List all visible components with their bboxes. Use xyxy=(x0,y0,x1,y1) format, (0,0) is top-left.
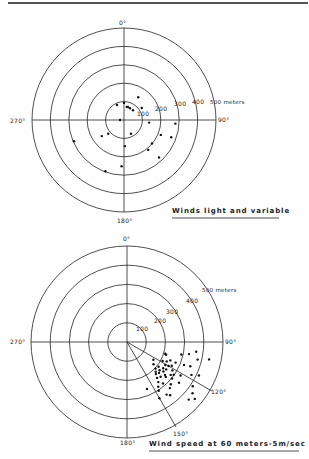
data-point xyxy=(162,367,164,369)
ring-label-200: 200 xyxy=(155,105,167,112)
data-point xyxy=(173,374,175,376)
data-point xyxy=(116,104,118,106)
data-point xyxy=(165,393,167,395)
data-point xyxy=(194,398,196,400)
data-point xyxy=(123,102,125,104)
data-point xyxy=(146,388,148,390)
data-point xyxy=(179,374,181,376)
data-point xyxy=(191,392,193,394)
data-point xyxy=(151,142,153,144)
data-point xyxy=(170,374,172,376)
polar-grid xyxy=(32,28,216,212)
data-point xyxy=(158,397,160,399)
data-point xyxy=(158,369,160,371)
data-point xyxy=(169,359,171,361)
label-90-deg: 90° xyxy=(225,338,237,345)
data-point xyxy=(180,353,182,355)
data-point xyxy=(120,165,122,167)
data-point xyxy=(155,371,157,373)
data-point xyxy=(147,149,149,151)
data-point xyxy=(170,383,172,385)
data-point xyxy=(174,122,176,124)
ring-label-500: 500 meters xyxy=(210,99,245,105)
label-180-deg: 180° xyxy=(120,439,136,446)
data-point xyxy=(208,358,210,360)
data-point xyxy=(171,365,173,367)
data-point xyxy=(124,145,126,147)
data-point xyxy=(171,377,173,379)
data-point xyxy=(198,374,200,376)
label-0-deg: 0° xyxy=(123,235,130,242)
label-120-deg: 120° xyxy=(211,388,227,395)
data-point xyxy=(132,109,134,111)
data-point xyxy=(157,366,159,368)
data-point xyxy=(130,133,132,135)
data-point xyxy=(188,398,190,400)
data-point xyxy=(127,106,129,108)
ring-label-200: 200 xyxy=(154,317,166,324)
data-point xyxy=(178,382,180,384)
data-point xyxy=(162,382,164,384)
ring-label-500: 500 meters xyxy=(202,287,237,293)
data-point xyxy=(119,119,121,121)
ring-label-100: 100 xyxy=(136,325,148,332)
data-point xyxy=(189,365,191,367)
data-point xyxy=(164,364,166,366)
ring-label-400: 400 xyxy=(192,98,204,105)
data-point xyxy=(104,170,106,172)
data-point xyxy=(183,364,185,366)
ring-label-100: 100 xyxy=(137,110,149,117)
data-point xyxy=(196,358,198,360)
data-point xyxy=(174,361,176,363)
data-point xyxy=(137,96,139,98)
data-point xyxy=(169,387,171,389)
data-point xyxy=(148,121,150,123)
data-point xyxy=(169,394,171,396)
data-point xyxy=(154,367,156,369)
data-point xyxy=(73,140,75,142)
data-point xyxy=(195,351,197,353)
data-point xyxy=(129,107,131,109)
data-point xyxy=(192,385,194,387)
data-point xyxy=(101,135,103,137)
data-point xyxy=(161,360,163,362)
label-150-deg: 150° xyxy=(173,430,189,437)
data-point xyxy=(188,353,190,355)
data-point xyxy=(152,363,154,365)
data-point xyxy=(171,369,173,371)
chart-title: Winds light and variable xyxy=(172,207,290,215)
sector-line-150 xyxy=(127,342,176,427)
data-point xyxy=(160,134,162,136)
data-point xyxy=(158,372,160,374)
label-90-deg: 90° xyxy=(218,116,230,123)
data-point xyxy=(165,368,167,370)
data-point xyxy=(162,370,164,372)
data-point xyxy=(159,376,161,378)
data-point xyxy=(190,374,192,376)
data-point xyxy=(167,365,169,367)
data-point xyxy=(158,390,160,392)
data-point xyxy=(141,107,143,109)
chart-wind-speed-60m: 0° 90° 180° 270° 120° 150° 100 200 300 4… xyxy=(10,235,306,451)
data-point xyxy=(156,377,158,379)
polar-grid xyxy=(31,246,223,438)
label-270-deg: 270° xyxy=(10,117,26,124)
data-point xyxy=(155,373,157,375)
data-point xyxy=(165,354,167,356)
data-point xyxy=(166,360,168,362)
data-point xyxy=(157,381,159,383)
ring-label-400: 400 xyxy=(186,297,198,304)
chart-title: Wind speed at 60 meters-5m/sec xyxy=(149,440,306,448)
label-0-deg: 0° xyxy=(119,19,126,26)
data-point xyxy=(165,376,167,378)
data-point xyxy=(107,133,109,135)
chart-winds-light-variable: 0° 90° 180° 270° 100 200 300 400 500 met… xyxy=(10,19,290,224)
data-point xyxy=(157,386,159,388)
label-270-deg: 270° xyxy=(10,338,26,345)
data-point xyxy=(152,359,154,361)
data-point xyxy=(170,136,172,138)
polar-charts: 0° 90° 180° 270° 100 200 300 400 500 met… xyxy=(0,0,309,459)
ring-label-300: 300 xyxy=(166,308,178,315)
label-180-deg: 180° xyxy=(117,217,133,224)
data-point xyxy=(158,156,160,158)
